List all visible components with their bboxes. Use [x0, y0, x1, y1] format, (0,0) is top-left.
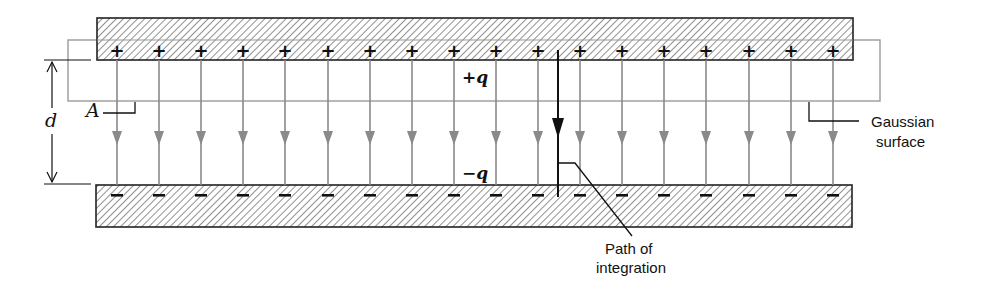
field-arrow-down-icon: [744, 131, 754, 145]
separation-label: d: [45, 109, 57, 131]
path-of-integration: Path of integration: [552, 50, 666, 276]
gaussian-label-line2: surface: [876, 133, 925, 150]
minus-charge-icon: [237, 194, 249, 197]
minus-charge-icon: [364, 194, 376, 197]
minus-charge-icon: [111, 194, 123, 197]
plus-charge-icon: +: [151, 40, 166, 61]
capacitor-diagram: ++++++++++++++++++ d A +q −q Path of int…: [0, 0, 985, 296]
field-arrow-down-icon: [323, 131, 333, 145]
path-label-line1: Path of: [605, 240, 653, 257]
field-arrow-down-icon: [407, 131, 417, 145]
bottom-plate: [96, 185, 852, 227]
minus-charge-icon: [153, 194, 165, 197]
gaussian-label-line1: Gaussian: [871, 113, 934, 130]
minus-charge-icon: [448, 194, 460, 197]
field-arrow-down-icon: [659, 131, 669, 145]
plus-charge-icon: +: [572, 40, 587, 61]
plus-charge-icon: +: [404, 40, 419, 61]
minus-charge-icon: [279, 194, 291, 197]
minus-charge-icon: [532, 194, 544, 197]
top-plate: [97, 18, 853, 60]
field-arrow-down-icon: [491, 131, 501, 145]
plus-charge-icon: +: [446, 40, 461, 61]
field-arrow-down-icon: [617, 131, 627, 145]
field-arrow-down-icon: [449, 131, 459, 145]
minus-charge-icon: [658, 194, 670, 197]
field-arrow-down-icon: [365, 131, 375, 145]
field-arrow-down-icon: [238, 131, 248, 145]
plus-charge-icon: +: [656, 40, 671, 61]
field-arrow-down-icon: [112, 131, 122, 145]
plus-charge-icon: +: [362, 40, 377, 61]
bottom-plate-charge-label: −q: [462, 163, 488, 183]
plus-charge-icon: +: [109, 40, 124, 61]
field-arrow-down-icon: [786, 131, 796, 145]
path-label-line2: integration: [596, 259, 666, 276]
area-label-group: A: [84, 99, 135, 121]
plus-charge-icon: +: [193, 40, 208, 61]
minus-charge-icon: [406, 194, 418, 197]
gaussian-surface-label-group: Gaussian surface: [809, 102, 934, 150]
plus-charge-icon: +: [530, 40, 545, 61]
plus-charge-icon: +: [825, 40, 840, 61]
plus-charge-icon: +: [320, 40, 335, 61]
field-arrow-down-icon: [828, 131, 838, 145]
minus-charge-icon: [827, 194, 839, 197]
minus-charge-icon: [574, 194, 586, 197]
field-arrow-down-icon: [575, 131, 585, 145]
minus-charge-icon: [743, 194, 755, 197]
plus-charge-icon: +: [235, 40, 250, 61]
minus-charge-icon: [322, 194, 334, 197]
plus-charge-icon: +: [698, 40, 713, 61]
field-arrow-down-icon: [280, 131, 290, 145]
field-arrow-down-icon: [196, 131, 206, 145]
path-arrowhead-icon: [552, 118, 564, 138]
minus-charge-icon: [490, 194, 502, 197]
plus-charge-icon: +: [488, 40, 503, 61]
plus-charge-icon: +: [277, 40, 292, 61]
field-arrow-down-icon: [701, 131, 711, 145]
minus-charge-icon: [785, 194, 797, 197]
minus-charge-icon: [700, 194, 712, 197]
plus-charge-icon: +: [741, 40, 756, 61]
field-arrow-down-icon: [533, 131, 543, 145]
field-arrow-down-icon: [154, 131, 164, 145]
plus-charge-icon: +: [614, 40, 629, 61]
minus-charge-icon: [195, 194, 207, 197]
top-plate-charge-label: +q: [462, 67, 488, 87]
minus-charge-icon: [616, 194, 628, 197]
area-label: A: [84, 99, 100, 121]
plus-charge-icon: +: [783, 40, 798, 61]
